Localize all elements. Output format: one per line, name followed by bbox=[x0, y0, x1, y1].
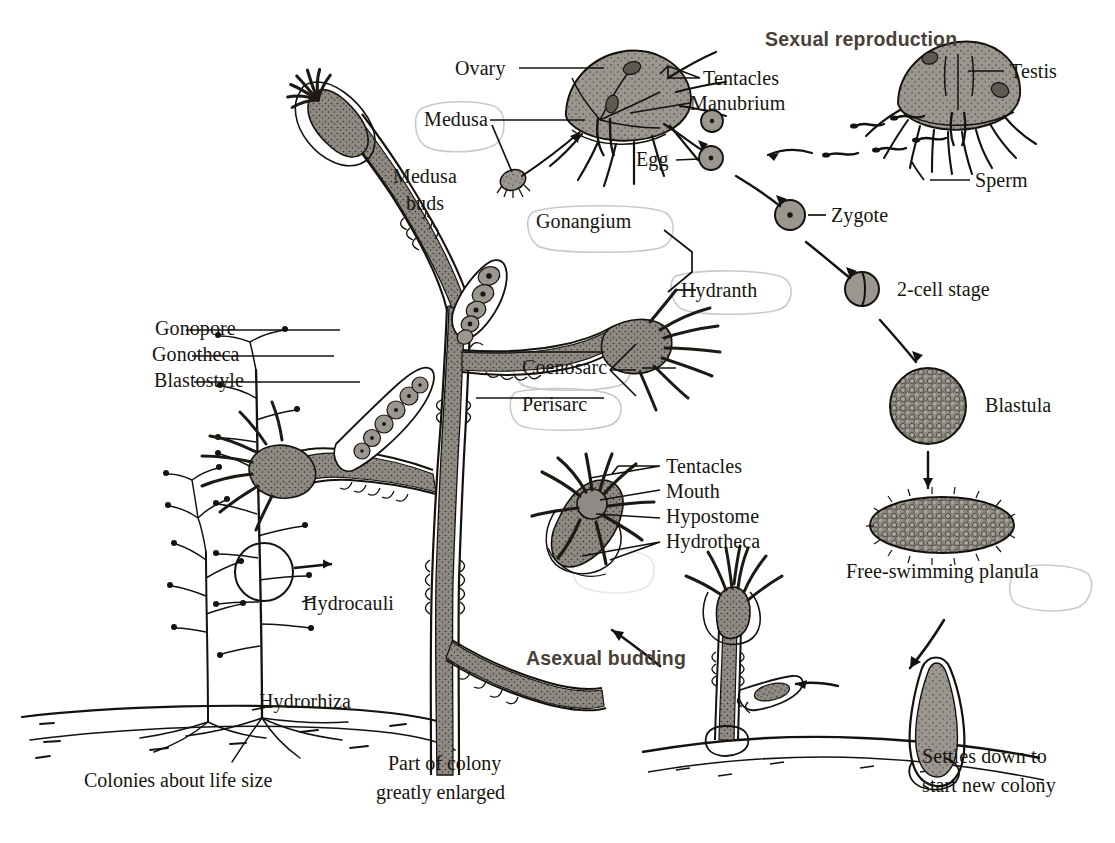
detail-hydranth bbox=[532, 454, 654, 576]
label-medusa-buds-line2: buds bbox=[406, 192, 444, 215]
heading-sexual-reproduction: Sexual reproduction bbox=[765, 28, 957, 50]
settled-planula bbox=[909, 658, 964, 790]
figure-canvas: Sexual reproduction Asexual budding Ovar… bbox=[0, 0, 1115, 843]
label-settles-line1: Settles down to bbox=[922, 745, 1047, 768]
label-gonotheca: Gonotheca bbox=[152, 343, 240, 366]
label-ovary: Ovary bbox=[455, 57, 505, 80]
label-hydrorhiza: Hydrorhiza bbox=[259, 690, 351, 713]
label-testis: Testis bbox=[1010, 60, 1057, 83]
label-free-swimming-planula: Free-swimming planula bbox=[846, 560, 1039, 583]
caption-colonies-life-size: Colonies about life size bbox=[84, 767, 272, 793]
life-cycle-illustration bbox=[0, 0, 1115, 843]
label-medusa-buds-line1: Medusa bbox=[393, 165, 457, 188]
caption-part-of-colony-line1: Part of colony bbox=[388, 750, 501, 776]
caption-part-of-colony-line2: greatly enlarged bbox=[376, 779, 505, 805]
label-coenosarc: Coenosarc bbox=[522, 356, 607, 379]
label-hydrocauli: Hydrocauli bbox=[303, 592, 394, 615]
label-two-cell-stage: 2-cell stage bbox=[897, 278, 990, 301]
label-manubrium: Manubrium bbox=[690, 92, 785, 115]
released-medusa-bud bbox=[497, 166, 530, 198]
label-gonangium: Gonangium bbox=[536, 210, 631, 233]
planula-larva bbox=[866, 487, 1015, 565]
label-blastostyle: Blastostyle bbox=[154, 369, 244, 392]
label-blastula: Blastula bbox=[985, 394, 1051, 417]
label-sperm: Sperm bbox=[975, 169, 1028, 192]
hydranth-right bbox=[601, 290, 720, 410]
label-tentacles-polyp: Tentacles bbox=[666, 455, 742, 478]
heading-asexual-budding: Asexual budding bbox=[526, 647, 686, 669]
label-gonopore: Gonopore bbox=[155, 317, 236, 340]
label-tentacles-medusa: Tentacles bbox=[703, 67, 779, 90]
label-medusa: Medusa bbox=[424, 108, 488, 131]
gamete-series bbox=[699, 110, 1015, 565]
label-hydranth: Hydranth bbox=[681, 279, 757, 302]
blastula-embryo bbox=[890, 368, 966, 444]
label-perisarc: Perisarc bbox=[522, 393, 587, 416]
label-hydrotheca: Hydrotheca bbox=[666, 530, 760, 553]
label-egg: Egg bbox=[636, 148, 669, 171]
label-zygote: Zygote bbox=[831, 204, 888, 227]
label-hypostome: Hypostome bbox=[666, 505, 759, 528]
label-mouth: Mouth bbox=[666, 480, 720, 503]
label-settles-line2: start new colony bbox=[922, 774, 1056, 797]
